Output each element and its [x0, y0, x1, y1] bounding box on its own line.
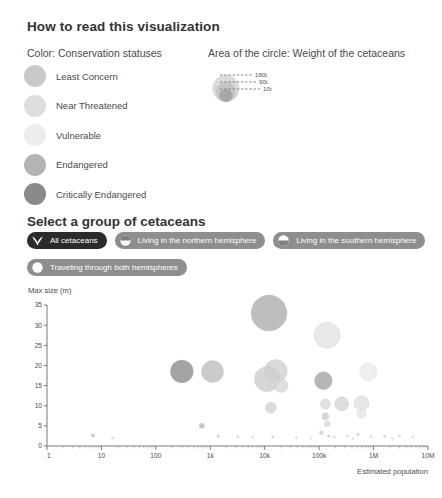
data-bubble[interactable] [383, 435, 385, 437]
group-filter-label: Traveling through both hemispheres [50, 263, 178, 272]
data-bubble[interactable] [314, 322, 340, 348]
conservation-status-swatch-icon [24, 183, 46, 205]
cetacean-group-selector-row2: Traveling through both hemispheres [27, 259, 187, 276]
conservation-legend-label: Vulnerable [56, 130, 101, 141]
data-bubble[interactable] [333, 436, 335, 438]
data-bubble[interactable] [391, 437, 393, 439]
visualization-page: How to read this visualization Color: Co… [0, 0, 442, 498]
data-bubble[interactable] [357, 409, 366, 418]
conservation-legend-item: Critically Endangered [24, 181, 146, 207]
data-bubble[interactable] [322, 413, 329, 420]
data-bubble[interactable] [320, 399, 330, 409]
data-bubble[interactable] [265, 402, 276, 413]
data-bubble[interactable] [217, 435, 220, 438]
conservation-legend-item: Vulnerable [24, 122, 146, 148]
conservation-status-swatch-icon [24, 124, 46, 146]
data-bubble[interactable] [170, 360, 193, 383]
y-axis-tick-label: 15 [35, 382, 43, 389]
group-filter-button[interactable]: All cetaceans [27, 232, 107, 249]
data-bubble[interactable] [272, 436, 274, 438]
data-bubble[interactable] [314, 372, 332, 390]
selector-title: Select a group of cetaceans [27, 214, 206, 229]
data-bubble[interactable] [324, 421, 330, 427]
weight-legend-label: 180t [255, 71, 267, 78]
data-bubble[interactable] [202, 360, 224, 382]
group-filter-button[interactable]: Living in the northern hemisphere [115, 232, 266, 249]
conservation-status-swatch-icon [24, 154, 46, 176]
southern-hemisphere-icon [277, 234, 290, 247]
page-title: How to read this visualization [27, 19, 220, 34]
x-axis-tick-label: 100k [312, 452, 327, 459]
y-axis-tick-label: 25 [35, 342, 43, 349]
y-axis-tick-label: 5 [38, 422, 42, 429]
bubble-scatter-chart: Max size (m)051015202530351101001k10k100… [0, 283, 442, 498]
data-bubble[interactable] [352, 438, 354, 440]
x-axis-tick-label: 10M [422, 452, 435, 459]
x-axis-tick-label: 1 [47, 452, 51, 459]
data-bubble[interactable] [274, 379, 288, 393]
conservation-legend-label: Least Concern [56, 71, 118, 82]
color-legend-title: Color: Conservation statuses [27, 47, 162, 59]
group-filter-button[interactable]: Traveling through both hemispheres [27, 259, 187, 276]
group-filter-label: All cetaceans [50, 236, 98, 245]
weight-legend-label: 10t [263, 85, 272, 92]
conservation-legend-item: Endangered [24, 152, 146, 178]
x-axis-tick-label: 10 [98, 452, 106, 459]
data-bubble[interactable] [357, 433, 359, 435]
data-bubble[interactable] [335, 397, 349, 411]
y-axis-tick-label: 35 [35, 301, 43, 308]
whale-tail-icon [31, 234, 44, 247]
group-filter-button[interactable]: Living in the southern hemisphere [273, 232, 425, 249]
data-bubble[interactable] [370, 436, 372, 438]
data-bubble[interactable] [346, 435, 348, 437]
conservation-legend-item: Near Threatened [24, 93, 146, 119]
x-axis-tick-label: 10k [259, 452, 270, 459]
data-bubble[interactable] [111, 437, 113, 439]
x-axis-tick-label: 1k [207, 452, 215, 459]
x-axis-title: Estimated population [357, 467, 428, 476]
data-bubble[interactable] [91, 434, 94, 437]
y-axis-title: Max size (m) [28, 286, 72, 295]
conservation-legend-label: Endangered [56, 159, 108, 170]
data-bubble[interactable] [360, 363, 377, 380]
weight-legend-label: 90t [259, 78, 268, 85]
data-bubble[interactable] [251, 295, 287, 331]
group-filter-label: Living in the northern hemisphere [138, 236, 257, 245]
conservation-legend-label: Critically Endangered [56, 189, 146, 200]
y-axis-tick-label: 20 [35, 362, 43, 369]
group-filter-label: Living in the southern hemisphere [296, 236, 416, 245]
y-axis-tick-label: 10 [35, 402, 43, 409]
x-axis-tick-label: 100 [150, 452, 161, 459]
conservation-legend-label: Near Threatened [56, 100, 128, 111]
weight-area-legend: 180t90t10t [208, 58, 328, 108]
cetacean-group-selector: All cetaceansLiving in the northern hemi… [27, 232, 425, 249]
data-bubble[interactable] [199, 423, 204, 428]
data-bubble[interactable] [252, 436, 254, 438]
data-bubble[interactable] [310, 437, 312, 439]
data-bubble[interactable] [412, 436, 414, 438]
data-bubble[interactable] [319, 431, 323, 435]
data-bubble[interactable] [327, 435, 330, 438]
data-bubble[interactable] [237, 436, 239, 438]
y-axis-tick-label: 0 [38, 442, 42, 449]
y-axis-tick-label: 30 [35, 322, 43, 329]
conservation-status-legend: Least ConcernNear ThreatenedVulnerableEn… [24, 63, 146, 211]
both-hemispheres-icon [31, 261, 44, 274]
weight-legend-circle [220, 89, 233, 102]
data-bubble[interactable] [398, 435, 400, 437]
conservation-status-swatch-icon [24, 65, 46, 87]
conservation-status-swatch-icon [24, 95, 46, 117]
conservation-legend-item: Least Concern [24, 63, 146, 89]
data-bubble[interactable] [295, 436, 297, 438]
x-axis-tick-label: 1M [369, 452, 378, 459]
data-bubble[interactable] [354, 396, 369, 411]
northern-hemisphere-icon [119, 234, 132, 247]
